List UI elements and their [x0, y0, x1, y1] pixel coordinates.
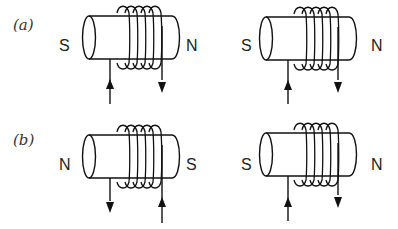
arrow-down-icon	[106, 202, 114, 213]
pole-label-right: N	[186, 37, 198, 54]
pole-label-right: S	[186, 156, 197, 173]
pole-label-right: N	[371, 37, 383, 54]
arrow-up-icon	[106, 79, 114, 89]
solenoid-a-right	[260, 7, 357, 104]
pole-label-left: S	[241, 37, 252, 54]
solenoid-a-left	[83, 6, 180, 104]
pole-label-left: N	[59, 156, 71, 173]
pole-label-left: S	[241, 156, 252, 173]
arrow-up-icon	[284, 197, 292, 207]
panel-label-a: (a)	[13, 16, 34, 34]
solenoid-b-right	[260, 123, 357, 221]
pole-label-right: N	[371, 156, 383, 173]
arrow-down-icon	[158, 82, 166, 93]
arrow-up-icon	[158, 197, 166, 207]
panel-label-b: (b)	[13, 131, 34, 149]
pole-label-left: S	[59, 37, 70, 54]
solenoid-b-left	[83, 125, 180, 223]
solenoid-diagram: (a) S N S N (b) N S S N	[0, 0, 398, 229]
arrow-down-icon	[334, 82, 342, 93]
arrow-down-icon	[334, 197, 342, 208]
arrow-up-icon	[284, 80, 292, 90]
